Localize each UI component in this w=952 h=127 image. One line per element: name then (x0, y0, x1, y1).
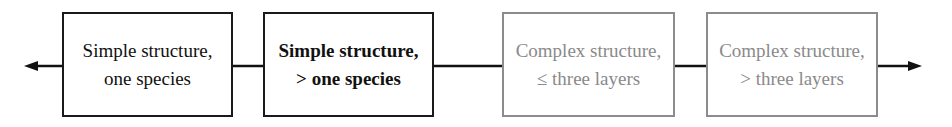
arrow-right-icon (908, 61, 922, 71)
box-line2: > one species (296, 65, 401, 93)
box-complex-gt-three: Complex structure, > three layers (706, 12, 878, 117)
arrow-left-icon (24, 61, 38, 71)
box-line2: one species (104, 65, 191, 93)
box-line2: > three layers (740, 65, 844, 93)
box-line1: Simple structure, (278, 37, 418, 65)
box-simple-one-species: Simple structure, one species (62, 12, 233, 117)
box-complex-le-three: Complex structure, ≤ three layers (502, 12, 675, 117)
box-line1: Complex structure, (516, 37, 662, 65)
box-line1: Simple structure, (83, 37, 213, 65)
box-simple-multi-species: Simple structure, > one species (263, 12, 434, 117)
box-line2: ≤ three layers (537, 65, 640, 93)
box-line1: Complex structure, (719, 37, 865, 65)
